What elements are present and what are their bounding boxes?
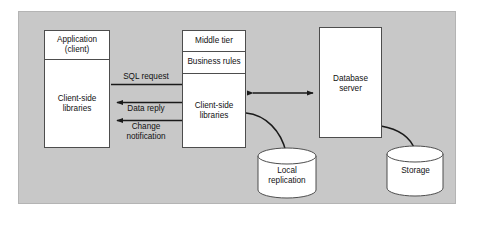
application-client-libraries: Client-side libraries — [45, 59, 109, 149]
node-application-client: Application (client) Client-side librari… — [44, 30, 110, 148]
local-replication-line-2: replication — [258, 176, 316, 186]
middle-tier-libraries-line-1: Client-side — [195, 101, 234, 111]
middle-tier-title: Middle tier — [183, 31, 245, 51]
local-replication-line-1: Local — [258, 166, 316, 176]
application-client-title-line-1: Application — [57, 35, 97, 45]
change-notification-line-2: notification — [108, 132, 184, 142]
middle-tier-business-rules: Business rules — [183, 51, 245, 73]
change-notification-label: Change notification — [108, 122, 184, 142]
diagram-canvas: Application (client) Client-side librari… — [0, 0, 479, 227]
change-notification-line-1: Change — [108, 122, 184, 132]
sql-request-label: SQL request — [110, 72, 182, 82]
database-server-line-1: Database — [333, 74, 368, 84]
middle-tier-libraries-line-2: libraries — [195, 111, 234, 121]
application-client-libraries-line-2: libraries — [58, 104, 97, 114]
database-server-line-2: server — [333, 84, 368, 94]
middle-tier-libraries: Client-side libraries — [183, 73, 245, 149]
storage-line-1: Storage — [387, 166, 444, 176]
storage-label: Storage — [387, 166, 444, 176]
local-replication-label: Local replication — [258, 166, 316, 186]
application-client-title-line-2: (client) — [57, 45, 97, 55]
data-reply-label: Data reply — [110, 104, 182, 114]
application-client-title: Application (client) — [45, 31, 109, 59]
database-server-label: Database server — [320, 28, 381, 139]
link-middle-to-local-replication — [246, 113, 286, 152]
application-client-libraries-line-1: Client-side — [58, 94, 97, 104]
node-database-server: Database server — [319, 27, 382, 138]
node-middle-tier: Middle tier Business rules Client-side l… — [182, 30, 246, 148]
